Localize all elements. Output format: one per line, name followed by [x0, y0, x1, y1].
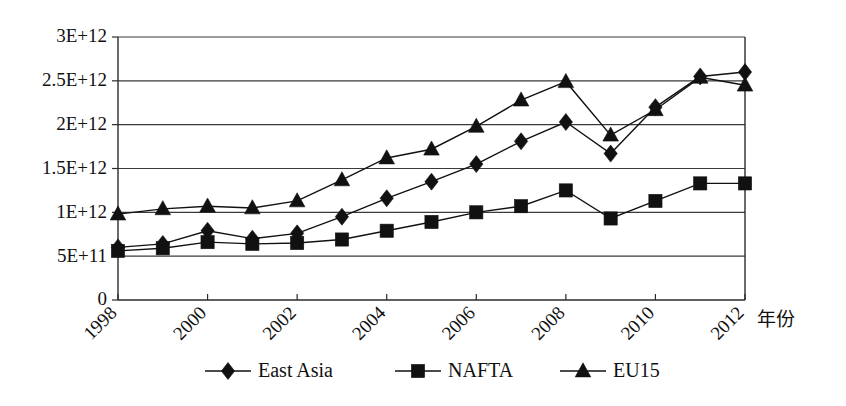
diamond-marker: [425, 173, 438, 190]
y-tick-label: 1.5E+12: [42, 157, 107, 178]
line-chart-figure: 05E+111E+121.5E+122E+122.5E+123E+12 1998…: [0, 0, 846, 406]
triangle-marker: [513, 92, 529, 106]
y-tick-label: 3E+12: [56, 25, 107, 46]
y-axis-tick-labels: 05E+111E+121.5E+122E+122.5E+123E+12: [42, 25, 118, 309]
y-tick-label: 2E+12: [56, 113, 107, 134]
x-tick-label: 2010: [617, 302, 659, 344]
legend-item-eu15[interactable]: EU15: [560, 359, 660, 381]
diamond-marker: [335, 208, 348, 225]
y-tick-label: 1E+12: [56, 201, 107, 222]
triangle-marker: [334, 172, 350, 186]
series-markers: [110, 64, 753, 258]
square-marker: [291, 236, 304, 249]
x-tick-label: 2006: [437, 302, 479, 344]
diamond-marker: [559, 114, 572, 131]
triangle-marker: [468, 118, 484, 132]
x-axis-tick-labels: 19982000200220042006200820102012: [79, 302, 748, 344]
square-marker: [201, 236, 214, 249]
legend-label: EU15: [613, 359, 660, 381]
triangle-marker: [289, 193, 305, 207]
diamond-marker: [514, 133, 527, 150]
square-marker: [470, 206, 483, 219]
square-marker: [649, 194, 662, 207]
diamond-marker: [380, 190, 393, 207]
legend-label: East Asia: [258, 359, 333, 381]
square-marker: [559, 184, 572, 197]
square-marker: [604, 212, 617, 225]
square-marker: [380, 224, 393, 237]
square-marker: [111, 244, 124, 257]
square-marker: [738, 177, 751, 190]
y-tick-label: 2.5E+12: [42, 69, 107, 90]
triangle-marker: [424, 141, 440, 155]
legend-label: NAFTA: [448, 359, 514, 381]
triangle-marker: [575, 363, 591, 377]
x-axis-title: 年份: [757, 309, 795, 330]
diamond-marker: [604, 145, 617, 162]
diamond-marker: [470, 156, 483, 173]
x-tick-label: 1998: [79, 302, 121, 344]
x-axis-title: 年份: [757, 309, 795, 330]
x-tick-label: 2008: [527, 302, 569, 344]
square-marker: [335, 233, 348, 246]
square-marker: [411, 364, 424, 377]
x-axis-ticks: [118, 294, 745, 300]
square-marker: [156, 242, 169, 255]
x-tick-label: 2000: [169, 302, 211, 344]
chart-legend: East AsiaNAFTAEU15: [205, 359, 660, 381]
y-tick-label: 5E+11: [57, 245, 107, 266]
x-tick-label: 2002: [258, 302, 300, 344]
square-marker: [425, 215, 438, 228]
square-marker: [246, 237, 259, 250]
x-tick-label: 2004: [348, 302, 390, 344]
triangle-marker: [155, 201, 171, 215]
square-marker: [694, 177, 707, 190]
legend-item-east-asia[interactable]: East Asia: [205, 359, 333, 381]
triangle-marker: [200, 198, 216, 212]
chart-canvas: 05E+111E+121.5E+122E+122.5E+123E+12 1998…: [0, 0, 846, 406]
legend-item-nafta[interactable]: NAFTA: [395, 359, 514, 381]
diamond-marker: [221, 363, 234, 380]
square-marker: [514, 200, 527, 213]
x-tick-label: 2012: [706, 302, 748, 344]
